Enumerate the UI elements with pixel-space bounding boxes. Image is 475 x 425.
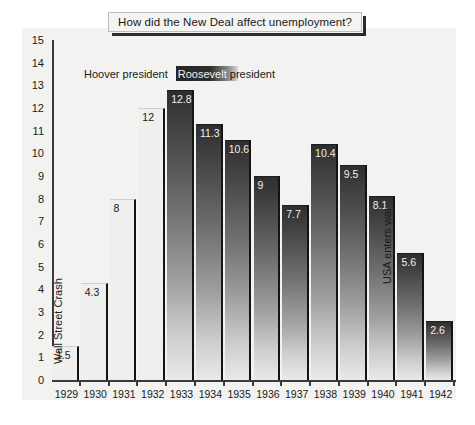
legend-item-hoover: Hoover president	[84, 68, 168, 80]
bar-value-label-1935: 10.6	[229, 144, 249, 155]
y-axis-tick-label: 14	[0, 57, 44, 69]
bar-value-label-1933: 12.8	[171, 94, 191, 105]
bar-value-label-1931: 8	[114, 203, 120, 214]
x-axis-tick-mark	[453, 380, 455, 386]
x-axis-tick-mark	[309, 380, 311, 386]
x-axis-tick-mark	[194, 380, 196, 386]
y-axis-tick-label: 5	[0, 261, 44, 273]
annotation-wall-street-crash: Wall Street Crash	[52, 278, 64, 364]
bar-1935: 10.6	[225, 140, 252, 380]
y-axis-tick-label: 0	[0, 374, 44, 386]
bar-1938: 10.4	[311, 144, 338, 380]
x-axis-tick-mark	[223, 380, 225, 386]
bar-value-label-1930: 4.3	[85, 287, 100, 298]
y-axis-tick-label: 1	[0, 351, 44, 363]
x-axis-tick-mark	[165, 380, 167, 386]
y-axis-tick-label: 7	[0, 215, 44, 227]
bar-value-label-1942: 2.6	[430, 325, 445, 336]
y-axis-tick-label: 8	[0, 193, 44, 205]
y-axis-tick-label: 15	[0, 34, 44, 46]
y-axis-tick-label: 13	[0, 79, 44, 91]
chart-title-box: How did the New Deal affect unemployment…	[108, 12, 362, 32]
x-axis-tick-mark	[79, 380, 81, 386]
bar-1930: 4.3	[81, 283, 108, 380]
x-axis-tick-mark	[280, 380, 282, 386]
y-axis-tick-label: 9	[0, 170, 44, 182]
bar-value-label-1937: 7.7	[286, 209, 301, 220]
x-axis-tick-mark	[367, 380, 369, 386]
bar-value-label-1934: 11.3	[200, 128, 220, 139]
bar-1934: 11.3	[196, 124, 223, 380]
bar-1931: 8	[110, 199, 137, 380]
legend-label-roosevelt-highlight: Roosevelt	[178, 68, 227, 80]
bar-value-label-1941: 5.6	[401, 257, 416, 268]
bar-value-label-1938: 10.4	[315, 148, 335, 159]
bar-1933: 12.8	[167, 90, 194, 380]
legend-label-roosevelt-rest: president	[227, 68, 275, 80]
y-axis-tick-label: 12	[0, 102, 44, 114]
legend-item-roosevelt: Roosevelt president	[178, 68, 275, 80]
y-axis-tick-label: 4	[0, 283, 44, 295]
bar-value-label-1939: 9.5	[344, 169, 359, 180]
bar-value-label-1936: 9	[258, 180, 264, 191]
plot-area: 0123456789101112131415 1.54.381212.811.3…	[52, 40, 455, 380]
title-shadow-bottom	[112, 33, 366, 36]
y-axis-tick-label: 6	[0, 238, 44, 250]
y-axis-tick-label: 10	[0, 147, 44, 159]
page-title: How did the New Deal affect unemployment…	[118, 16, 352, 28]
bar-1939: 9.5	[340, 165, 367, 380]
x-axis-tick-mark	[108, 380, 110, 386]
x-axis-tick-mark	[424, 380, 426, 386]
x-axis-tick-mark	[136, 380, 138, 386]
x-axis-tick-mark	[252, 380, 254, 386]
bar-1941: 5.6	[397, 253, 424, 380]
x-axis-tick-mark	[338, 380, 340, 386]
annotation-usa-enters-war: USA enters war	[381, 208, 393, 284]
bar-1937: 7.7	[282, 205, 309, 380]
legend-label-roosevelt: Roosevelt president	[178, 68, 275, 80]
bar-1942: 2.6	[426, 321, 453, 380]
y-axis-tick-label: 11	[0, 125, 44, 137]
bar-1932: 12	[138, 108, 165, 380]
y-axis-tick-label: 3	[0, 306, 44, 318]
x-axis-tick-mark	[395, 380, 397, 386]
x-axis-tick-label-1942: 1942	[424, 388, 458, 400]
y-axis-tick-label: 2	[0, 329, 44, 341]
president-legend: Hoover president Roosevelt president	[84, 68, 275, 80]
bar-1936: 9	[254, 176, 281, 380]
bar-value-label-1932: 12	[142, 112, 154, 123]
